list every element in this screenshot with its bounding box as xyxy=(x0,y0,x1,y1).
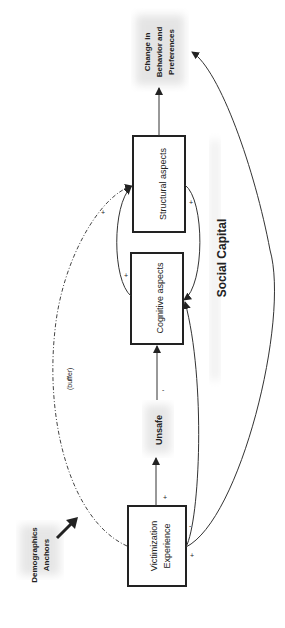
demographics-halo xyxy=(20,525,60,575)
social-capital-title: Social Capital xyxy=(215,219,229,298)
change-label-line2: Behavior and xyxy=(155,27,164,78)
sign-plus-struct-cog: + xyxy=(189,199,193,206)
edge-victimization-to-change xyxy=(186,52,275,547)
structural-aspects-label: Structural aspects xyxy=(158,147,168,220)
sign-plus-buffer: + xyxy=(101,209,105,216)
unsafe-label: Unsafe xyxy=(154,415,164,445)
victimization-label-line1: Victimization xyxy=(149,521,159,571)
change-label-line3: Preferences xyxy=(167,29,176,75)
sign-minus-unsafe-cognitive: - xyxy=(162,386,165,393)
sign-plus-cog-struct: + xyxy=(124,272,128,279)
cognitive-aspects-label: Cognitive aspects xyxy=(155,262,165,334)
edge-victimization-to-cognitive xyxy=(185,302,199,547)
demographics-label-line2: Anchors xyxy=(42,538,51,571)
demographics-label-line1: Demographics xyxy=(30,527,39,583)
sign-plus-vict-change: + xyxy=(190,552,194,559)
social-capital-diagram: + - + + - + + (buffer) Structural aspect… xyxy=(0,0,285,628)
edge-cognitive-to-structural xyxy=(117,187,131,296)
buffer-label: (buffer) xyxy=(66,368,74,390)
edge-buffer-dashdot xyxy=(53,186,132,546)
sign-plus-vict-unsafe: + xyxy=(163,494,167,501)
change-label-line1: Change in xyxy=(143,33,152,72)
victimization-label-line2: Experience xyxy=(162,523,172,568)
